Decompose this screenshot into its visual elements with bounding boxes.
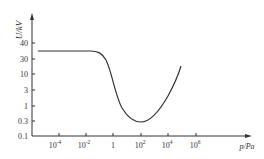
- y-tick-label: 30: [20, 55, 28, 64]
- y-tick-label: 40: [20, 39, 28, 48]
- x-tick-label: 104: [162, 139, 173, 150]
- x-tick-label: 10-2: [78, 139, 91, 150]
- y-tick-label: 3: [24, 86, 28, 95]
- y-tick-label: 1: [24, 102, 28, 111]
- x-tick-label: 1: [111, 141, 115, 150]
- y-axis-label: U/kV: [14, 19, 24, 39]
- y-tick-label: 10: [20, 70, 28, 79]
- paschen-curve: [38, 51, 181, 122]
- x-tick-label: 102: [135, 139, 146, 150]
- paschen-chart: U/kV 40 30 10 3 1 0.3 0.1 10-4 10-2 1 10…: [0, 0, 264, 159]
- x-tick-label: 10-4: [49, 139, 62, 150]
- y-axis-arrow-icon: [30, 13, 34, 20]
- x-axis-arrow-icon: [245, 134, 252, 138]
- x-axis-label: p/Pa: [238, 142, 254, 151]
- x-tick-label: 106: [190, 139, 201, 150]
- y-tick-label: 0.3: [18, 117, 28, 126]
- y-tick-label: 0.1: [18, 132, 28, 141]
